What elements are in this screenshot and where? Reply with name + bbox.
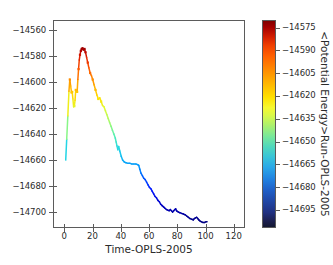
colorbar-tick-mark — [276, 96, 280, 97]
y-tick-mark-inner — [53, 212, 57, 213]
figure-canvas: −14560−14580−14600−14620−14640−14660−146… — [0, 0, 333, 265]
data-point-marker — [71, 91, 73, 93]
data-point-marker — [77, 68, 79, 70]
y-tick-mark-inner — [53, 134, 57, 135]
y-tick-label: −14600 — [12, 77, 46, 87]
colorbar-tick-mark — [276, 50, 280, 51]
x-tick-label: 60 — [144, 231, 155, 241]
data-point-marker — [69, 78, 71, 80]
x-tick-label: 0 — [62, 231, 67, 241]
line-segment — [120, 151, 121, 156]
y-tick-label: −14640 — [12, 129, 46, 139]
colorbar-tick-label: −14605 — [282, 68, 316, 78]
colorbar-tick-mark — [276, 119, 280, 120]
data-point-marker — [84, 51, 86, 53]
y-tick-mark-inner — [53, 82, 57, 83]
line-segment — [66, 139, 67, 160]
line-segment — [75, 90, 76, 100]
colorbar-tick-label: −14650 — [282, 136, 316, 146]
colorbar-tick-mark — [276, 142, 280, 143]
line-segment — [78, 69, 79, 79]
colorbar-tick-mark — [276, 210, 280, 211]
y-tick-mark-inner — [53, 186, 57, 187]
data-point-marker — [92, 78, 94, 80]
x-tick-mark-inner — [121, 224, 122, 228]
colorbar-tick-label: −14575 — [282, 22, 316, 32]
data-point-marker — [83, 48, 85, 50]
y-tick-mark-inner — [53, 56, 57, 57]
data-point-marker — [79, 54, 81, 56]
colorbar-tick-mark — [276, 164, 280, 165]
colorbar-tick-mark — [276, 187, 280, 188]
y-tick-label: −14620 — [12, 103, 46, 113]
data-point-marker — [76, 91, 78, 93]
y-tick-label: −14680 — [12, 181, 46, 191]
data-point-marker — [97, 98, 99, 100]
y-tick-label: −14700 — [12, 207, 46, 217]
colorbar — [262, 20, 276, 228]
x-tick-label: 80 — [172, 231, 183, 241]
colorbar-tick-label: −14620 — [282, 90, 316, 100]
x-tick-mark-inner — [93, 224, 94, 228]
data-point-marker — [87, 62, 89, 64]
x-tick-mark-inner — [177, 224, 178, 228]
data-point-marker — [94, 89, 96, 91]
x-tick-mark-inner — [206, 224, 207, 228]
x-tick-mark-inner — [149, 224, 150, 228]
colorbar-tick-label: −14695 — [282, 204, 316, 214]
x-axis-label: Time-OPLS-2005 — [53, 243, 245, 255]
y-tick-label: −14560 — [12, 25, 46, 35]
data-point-marker — [100, 101, 102, 103]
x-tick-label: 120 — [226, 231, 242, 241]
y-tick-label: −14580 — [12, 51, 46, 61]
line-segment — [79, 60, 80, 69]
plot-axes — [53, 20, 245, 228]
line-series-colored — [54, 21, 246, 229]
colorbar-tick-mark — [276, 28, 280, 29]
y-tick-mark-inner — [53, 108, 57, 109]
colorbar-label: <Potential Energy>Run-OPLS-2005 — [318, 20, 331, 228]
colorbar-tick-mark — [276, 73, 280, 74]
line-segment — [67, 116, 68, 139]
x-tick-mark-inner — [64, 224, 65, 228]
colorbar-tick-label: −14665 — [282, 159, 316, 169]
y-tick-mark-inner — [53, 30, 57, 31]
data-point-marker — [80, 50, 82, 52]
data-point-marker — [89, 72, 91, 74]
x-tick-label: 20 — [87, 231, 98, 241]
x-tick-mark-inner — [234, 224, 235, 228]
data-point-marker — [75, 89, 77, 91]
colorbar-tick-label: −14590 — [282, 45, 316, 55]
y-tick-mark-inner — [53, 160, 57, 161]
data-point-marker — [73, 105, 75, 107]
x-tick-label: 100 — [197, 231, 213, 241]
colorbar-gradient — [262, 20, 276, 228]
x-tick-label: 40 — [115, 231, 126, 241]
line-segment — [68, 91, 69, 116]
y-tick-label: −14660 — [12, 155, 46, 165]
colorbar-tick-label: −14635 — [282, 113, 316, 123]
colorbar-tick-label: −14680 — [282, 182, 316, 192]
line-segment — [77, 80, 78, 92]
